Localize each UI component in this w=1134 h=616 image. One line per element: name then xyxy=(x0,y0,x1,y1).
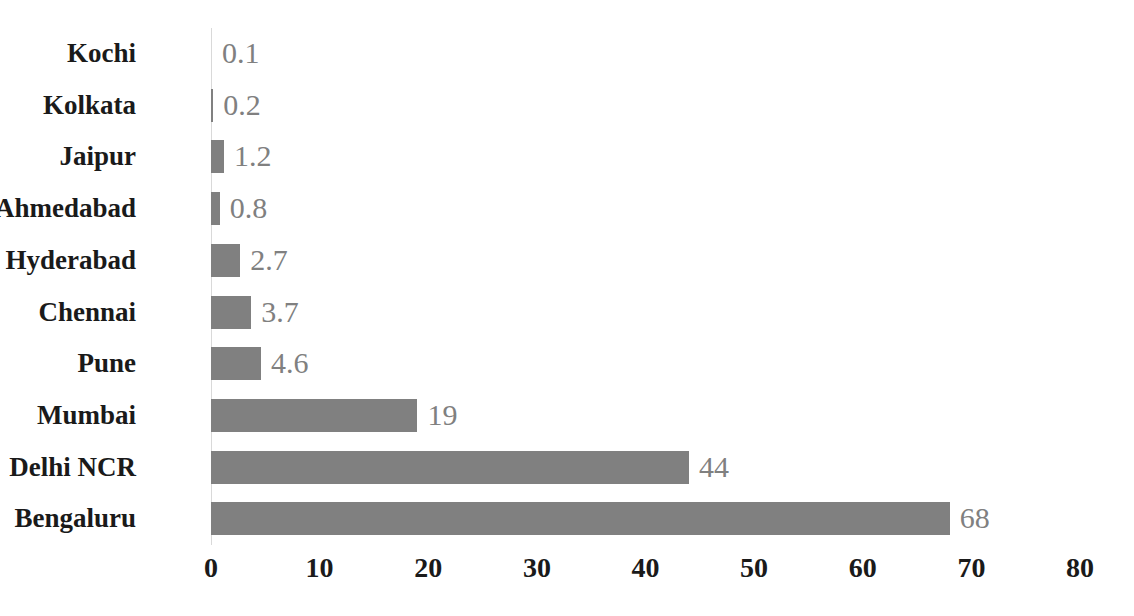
category-label: Pune xyxy=(0,338,136,390)
bar[interactable] xyxy=(211,140,224,173)
bar[interactable] xyxy=(211,451,689,484)
bar-row: 0.2 Kolkata xyxy=(211,80,1080,132)
bar-value-label: 3.7 xyxy=(261,294,299,330)
category-label: Kolkata xyxy=(0,80,136,132)
category-label: Delhi NCR xyxy=(0,442,136,494)
bar-row: 19 Mumbai xyxy=(211,390,1080,442)
x-tick-label: 70 xyxy=(931,552,1011,584)
bar[interactable] xyxy=(211,192,220,225)
bar[interactable] xyxy=(211,502,950,535)
category-label: Hyderabad xyxy=(0,235,136,287)
x-tick-label: 80 xyxy=(1040,552,1120,584)
bar-row: 2.7 Hyderabad xyxy=(211,235,1080,287)
bar-row: 1.2 Jaipur xyxy=(211,131,1080,183)
bar-value-label: 68 xyxy=(960,500,990,536)
x-axis-tick-labels: 0 10 20 30 40 50 60 70 80 xyxy=(211,552,1080,596)
category-label: Bengaluru xyxy=(0,493,136,545)
bar-value-label: 0.8 xyxy=(230,190,268,226)
x-tick-label: 0 xyxy=(171,552,251,584)
bar-value-label: 2.7 xyxy=(250,242,288,278)
bar[interactable] xyxy=(211,399,417,432)
bar-row: 0.1 Kochi xyxy=(211,28,1080,80)
bar-value-label: 1.2 xyxy=(234,138,272,174)
x-tick-label: 40 xyxy=(606,552,686,584)
category-label: Ahmedabad xyxy=(0,183,136,235)
x-tick-label: 30 xyxy=(497,552,577,584)
bar[interactable] xyxy=(211,89,213,122)
bar-row: 0.8 Ahmedabad xyxy=(211,183,1080,235)
bar[interactable] xyxy=(211,347,261,380)
bar-row: 68 Bengaluru xyxy=(211,493,1080,545)
bar-value-label: 4.6 xyxy=(271,345,309,381)
bar-value-label: 44 xyxy=(699,449,729,485)
bar-value-label: 0.2 xyxy=(223,87,261,123)
x-tick-label: 50 xyxy=(714,552,794,584)
bar-chart: 0.1 Kochi 0.2 Kolkata 1.2 Jaipur 0.8 Ahm… xyxy=(0,0,1134,616)
category-label: Mumbai xyxy=(0,390,136,442)
x-tick-label: 10 xyxy=(280,552,360,584)
x-tick-label: 60 xyxy=(823,552,903,584)
plot-area: 0.1 Kochi 0.2 Kolkata 1.2 Jaipur 0.8 Ahm… xyxy=(211,28,1080,545)
x-tick-label: 20 xyxy=(388,552,468,584)
category-label: Jaipur xyxy=(0,131,136,183)
category-label: Chennai xyxy=(0,287,136,339)
category-label: Kochi xyxy=(0,28,136,80)
bar-row: 4.6 Pune xyxy=(211,338,1080,390)
bar-value-label: 0.1 xyxy=(222,35,260,71)
bar[interactable] xyxy=(211,296,251,329)
bar[interactable] xyxy=(211,244,240,277)
bar-value-label: 19 xyxy=(427,397,457,433)
bar-row: 44 Delhi NCR xyxy=(211,442,1080,494)
bar-row: 3.7 Chennai xyxy=(211,287,1080,339)
